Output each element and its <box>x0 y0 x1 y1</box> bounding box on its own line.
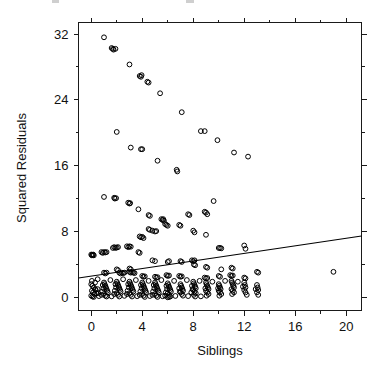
x-axis-title: Siblings <box>197 343 243 358</box>
y-tick-label: 0 <box>61 290 68 305</box>
x-tick-label: 0 <box>88 319 95 334</box>
y-tick-label: 32 <box>54 27 68 42</box>
y-tick-label: 8 <box>61 224 68 239</box>
x-tick-label: 4 <box>139 319 146 334</box>
x-tick-label: 12 <box>237 319 251 334</box>
figure-background <box>0 0 377 372</box>
y-tick-label: 24 <box>54 92 68 107</box>
y-axis-title: Squared Residuals <box>14 113 29 223</box>
scatter-plot-figure: 048121620 08162432 Siblings Squared Resi… <box>0 0 377 372</box>
x-tick-label: 8 <box>190 319 197 334</box>
x-tick-label: 16 <box>288 319 302 334</box>
y-tick-label: 16 <box>54 158 68 173</box>
chart-canvas: 048121620 08162432 Siblings Squared Resi… <box>0 0 377 372</box>
x-tick-label: 20 <box>339 319 353 334</box>
